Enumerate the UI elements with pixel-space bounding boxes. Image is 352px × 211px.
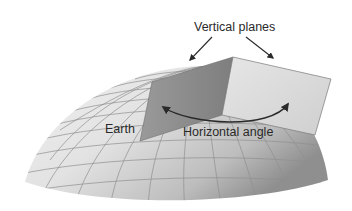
vertical-planes-label: Vertical planes [194,20,275,34]
horizontal-angle-label: Horizontal angle [183,125,273,139]
vertical-planes-diagram: Vertical planes Earth Horizontal angle [0,0,352,211]
diagram-canvas [0,0,352,211]
earth-label: Earth [105,122,135,136]
vertical-planes-pointer-left [190,37,212,60]
vertical-planes-pointer-right [246,37,273,58]
